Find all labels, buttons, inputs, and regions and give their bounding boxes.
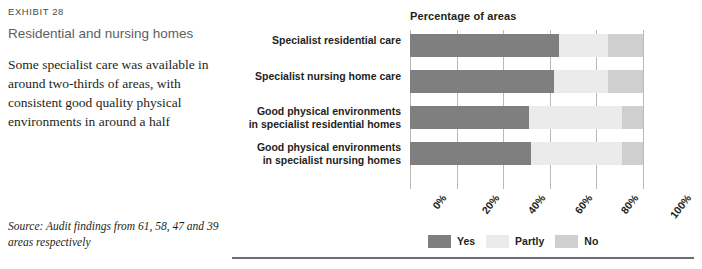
bar-category-label: Specialist residential care bbox=[226, 34, 410, 47]
bar-segment-yes bbox=[410, 70, 554, 93]
legend-item-partly: Partly bbox=[486, 235, 544, 248]
legend-label-yes: Yes bbox=[457, 235, 475, 247]
bar-segment-partly bbox=[554, 70, 608, 93]
legend-swatch-yes bbox=[428, 235, 451, 248]
exhibit-description: Some specialist care was available in ar… bbox=[8, 55, 220, 132]
chart-bar-row: Good physical environmentsin specialist … bbox=[410, 106, 643, 129]
legend-item-yes: Yes bbox=[428, 235, 475, 248]
legend-label-partly: Partly bbox=[515, 235, 544, 247]
bar-segment-partly bbox=[559, 34, 608, 57]
chart-bar-row: Good physical environmentsin specialist … bbox=[410, 142, 643, 165]
x-tick-60pct: 60% bbox=[572, 192, 594, 216]
legend-swatch-partly bbox=[486, 235, 509, 248]
bar-category-label: Specialist nursing home care bbox=[226, 70, 410, 83]
x-tick-20pct: 20% bbox=[479, 192, 501, 216]
bar-segment-yes bbox=[410, 142, 531, 165]
exhibit-figure: EXHIBIT 28 Residential and nursing homes… bbox=[0, 0, 702, 269]
chart-bar-row: Specialist residential care bbox=[410, 34, 643, 57]
chart-legend: YesPartlyNo bbox=[428, 232, 598, 250]
bar-segment-partly bbox=[531, 142, 622, 165]
x-tick-100pct: 100% bbox=[667, 192, 693, 221]
x-tick-40pct: 40% bbox=[525, 192, 547, 216]
bar-segment-yes bbox=[410, 34, 559, 57]
legend-item-no: No bbox=[555, 235, 598, 248]
bar-segment-yes bbox=[410, 106, 529, 129]
bottom-rule bbox=[232, 257, 694, 259]
bar-segment-no bbox=[608, 70, 643, 93]
chart-bar-row: Specialist nursing home care bbox=[410, 70, 643, 93]
exhibit-label: EXHIBIT 28 bbox=[8, 6, 220, 17]
bar-segment-no bbox=[608, 34, 643, 57]
chart-bars: Specialist residential careSpecialist nu… bbox=[410, 30, 643, 189]
bar-category-label: Good physical environmentsin specialist … bbox=[226, 105, 410, 130]
bar-segment-no bbox=[622, 106, 643, 129]
bar-segment-partly bbox=[529, 106, 622, 129]
chart-container: Percentage of areas Specialist residenti… bbox=[232, 4, 694, 266]
chart-plot-area: Specialist residential careSpecialist nu… bbox=[410, 30, 643, 189]
legend-swatch-no bbox=[555, 235, 578, 248]
gridline-100pct bbox=[643, 30, 644, 189]
x-tick-80pct: 80% bbox=[618, 192, 640, 216]
chart-x-axis: 0%20%40%60%80%100% bbox=[410, 190, 643, 232]
bar-category-label: Good physical environmentsin specialist … bbox=[226, 141, 410, 166]
chart-title: Percentage of areas bbox=[410, 10, 516, 22]
x-tick-0pct: 0% bbox=[430, 192, 449, 211]
bar-segment-no bbox=[622, 142, 643, 165]
legend-label-no: No bbox=[584, 235, 598, 247]
exhibit-source: Source: Audit findings from 61, 58, 47 a… bbox=[8, 218, 223, 251]
exhibit-title: Residential and nursing homes bbox=[8, 26, 220, 43]
